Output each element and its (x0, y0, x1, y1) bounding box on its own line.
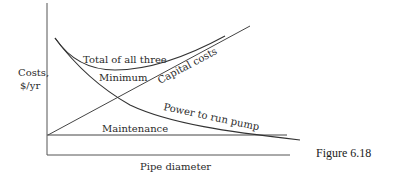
figure-caption: Figure 6.18 (316, 146, 371, 160)
minimum-label: Minimum (99, 72, 148, 83)
x-axis-label: Pipe diameter (140, 161, 211, 172)
y-axis-label-line2: $/yr (20, 80, 40, 91)
capital-costs-label: Capital costs (156, 45, 219, 85)
total-label: Total of all three (83, 54, 167, 65)
y-axis-label-line1: Costs, (18, 67, 49, 78)
maintenance-label: Maintenance (102, 123, 168, 134)
chart-figure: Total of all three Minimum Capital costs… (0, 0, 397, 175)
